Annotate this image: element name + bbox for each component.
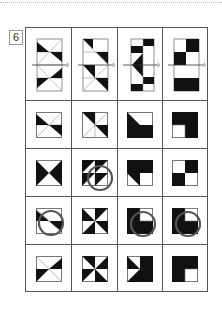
- header-figure-3: [123, 38, 163, 92]
- option-r1-c3[interactable]: [127, 112, 153, 138]
- header-figure-1: [32, 38, 72, 92]
- option-r3-c2[interactable]: [82, 208, 108, 234]
- row-divider: [26, 244, 207, 245]
- option-r2-c3[interactable]: [127, 160, 153, 186]
- dotted-divider: [0, 2, 222, 3]
- option-r2-c4[interactable]: [172, 160, 198, 186]
- option-r3-c4[interactable]: [172, 208, 206, 242]
- option-r1-c2[interactable]: [82, 112, 108, 138]
- problem-number: 6: [9, 30, 23, 45]
- option-r4-c4[interactable]: [172, 256, 198, 282]
- option-r4-c1[interactable]: [36, 256, 62, 282]
- option-r3-c1[interactable]: [36, 208, 70, 242]
- option-r1-c4[interactable]: [172, 112, 198, 138]
- row-divider: [26, 196, 207, 197]
- option-r4-c2[interactable]: [82, 256, 108, 282]
- option-r3-c3[interactable]: [127, 208, 161, 242]
- row-divider: [26, 148, 207, 149]
- puzzle-grid: [25, 27, 208, 292]
- row-divider: [26, 100, 207, 101]
- header-figure-4: [168, 38, 208, 92]
- header-figure-2: [78, 38, 118, 92]
- option-r4-c3[interactable]: [127, 256, 153, 282]
- option-r1-c1[interactable]: [36, 112, 62, 138]
- option-r2-c2[interactable]: [82, 160, 116, 194]
- option-r2-c1[interactable]: [36, 160, 62, 186]
